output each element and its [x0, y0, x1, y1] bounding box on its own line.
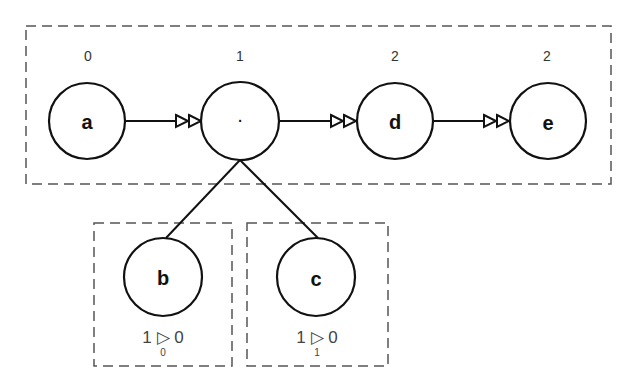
- node-label-d: d: [389, 111, 401, 134]
- node-label-e: e: [542, 112, 553, 135]
- triangle-right-icon: ▷: [311, 328, 324, 347]
- edge-dot-b: [166, 160, 240, 238]
- level-label-e: 2: [543, 48, 551, 64]
- edge-d-e: [433, 115, 509, 127]
- edge-dot-c: [240, 160, 318, 238]
- c-relation: 1 ▷ 0: [296, 327, 337, 348]
- b-rel-right: 0: [174, 328, 183, 347]
- triangle-right-icon: ▷: [157, 328, 170, 347]
- b-subscript: 0: [160, 347, 166, 358]
- c-rel-right: 0: [328, 328, 337, 347]
- node-label-b: b: [157, 267, 169, 290]
- node-label-dot: ·: [237, 108, 244, 131]
- level-label-a: 0: [84, 48, 92, 64]
- b-relation: 1 ▷ 0: [142, 327, 183, 348]
- edge-dot-d: [279, 115, 356, 127]
- node-label-c: c: [310, 268, 321, 291]
- b-rel-left: 1: [142, 328, 151, 347]
- c-rel-left: 1: [296, 328, 305, 347]
- level-label-d: 2: [391, 48, 399, 64]
- edge-a-dot: [125, 115, 201, 127]
- level-label-dot: 1: [236, 48, 244, 64]
- c-subscript: 1: [314, 347, 320, 358]
- node-label-a: a: [81, 111, 92, 134]
